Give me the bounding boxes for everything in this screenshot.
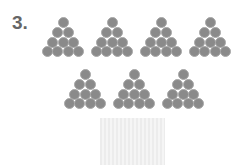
circle: [122, 46, 133, 57]
circle-triangle-group: [112, 69, 156, 111]
circle: [134, 98, 145, 109]
answer-box[interactable]: [100, 118, 165, 165]
circle-triangle-group: [139, 17, 183, 59]
circle: [73, 46, 84, 57]
circle: [210, 46, 221, 57]
circle: [64, 98, 75, 109]
circle: [52, 46, 63, 57]
circle: [220, 46, 231, 57]
circle: [162, 98, 173, 109]
circle: [101, 46, 112, 57]
problem-number: 3.: [12, 12, 28, 34]
circle-triangle-group: [161, 69, 205, 111]
circle: [113, 98, 124, 109]
circle: [144, 98, 155, 109]
circle-triangle-group: [90, 17, 134, 59]
circle: [150, 46, 161, 57]
circle: [193, 98, 204, 109]
circle: [161, 46, 172, 57]
circle: [171, 46, 182, 57]
circle: [91, 46, 102, 57]
circle: [85, 98, 96, 109]
circle-triangle-group: [63, 69, 107, 111]
circle: [63, 46, 74, 57]
circle: [140, 46, 151, 57]
circle: [42, 46, 53, 57]
circle: [123, 98, 134, 109]
circle-triangle-group: [188, 17, 232, 59]
circle: [189, 46, 200, 57]
circle: [74, 98, 85, 109]
circle: [172, 98, 183, 109]
circle-triangle-group: [41, 17, 85, 59]
circle: [95, 98, 106, 109]
circle: [199, 46, 210, 57]
circle: [183, 98, 194, 109]
circle: [112, 46, 123, 57]
